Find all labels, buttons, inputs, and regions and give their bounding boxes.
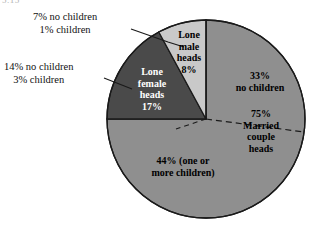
slice-label-no-children-l1: 33% [222,70,298,82]
callout-lone-female-line2: 3% children [4,74,73,87]
slice-label-lone-female-heads: Lone female heads 17% [126,66,178,112]
slice-label-no-children-l2: no children [222,82,298,94]
slice-label-no-children: 33% no children [222,70,298,93]
callout-lone-female-line1: 14% no children [4,61,73,74]
slice-label-with-children: 44% (one or more children) [128,155,238,178]
slice-label-lone-female-l3: heads [126,89,178,101]
slice-label-lone-male-l3: heads [166,52,212,64]
slice-label-with-children-l1: 44% (one or [128,155,238,167]
slice-label-lone-male-l1: Lone [166,29,212,41]
slice-label-lone-female-l1: Lone [126,66,178,78]
callout-lone-male-line1: 7% no children [33,11,97,24]
callout-lone-female-breakdown: 14% no children 3% children [4,61,73,86]
slice-label-married-l2: Married [232,120,290,132]
slice-label-lone-male-l2: male [166,41,212,53]
callout-lone-male-line2: 1% children [33,24,97,37]
slice-label-married-couple-heads: 75% Married couple heads [232,108,290,154]
slice-label-lone-female-l2: female [126,78,178,90]
pie-chart-figure: 5.15 7% no children 1% children 14% no c… [0,0,320,226]
slice-label-lone-female-l4: 17% [126,101,178,113]
slice-label-married-l4: heads [232,143,290,155]
slice-label-married-l1: 75% [232,108,290,120]
slice-label-with-children-l2: more children) [128,167,238,179]
slice-label-married-l3: couple [232,131,290,143]
callout-lone-male-breakdown: 7% no children 1% children [33,11,97,36]
